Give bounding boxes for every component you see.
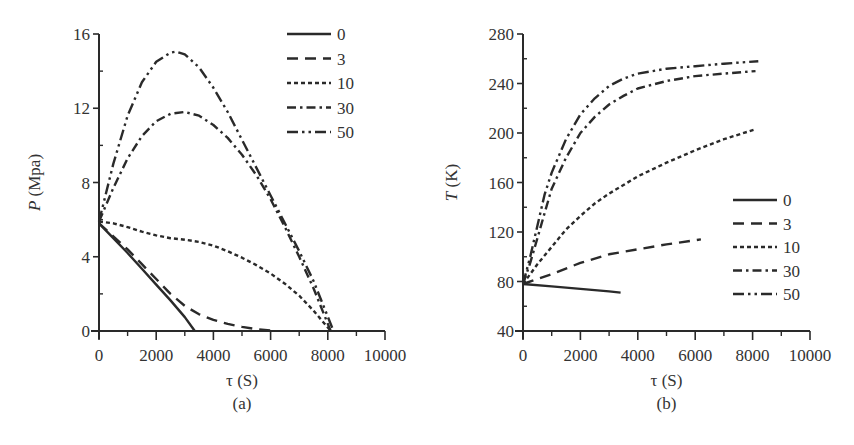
x-tick-label: 2000 (139, 346, 173, 365)
y-tick-label: 40 (497, 322, 514, 341)
y-tick-label: 12 (73, 99, 90, 118)
series-line-0 (523, 284, 621, 293)
x-tick-label: 8000 (736, 346, 770, 365)
chart-pressure: 04812160200040006000800010000τ (S)(a)P (… (25, 25, 406, 413)
series-line-30 (99, 112, 331, 331)
legend-label: 30 (783, 262, 800, 281)
legend-label: 10 (337, 74, 354, 93)
x-tick-label: 10000 (364, 346, 407, 365)
y-tick-label: 120 (489, 223, 515, 242)
legend-label: 50 (783, 285, 800, 304)
y-tick-label: 280 (489, 25, 515, 44)
panel-label: (b) (657, 394, 677, 413)
y-tick-label: 80 (497, 273, 514, 292)
x-axis-label: τ (S) (651, 371, 683, 390)
x-tick-label: 0 (95, 346, 104, 365)
panel-label: (a) (233, 394, 252, 413)
legend-label: 3 (783, 215, 792, 234)
series-line-50 (523, 61, 758, 284)
series-line-10 (99, 222, 331, 332)
x-tick-label: 4000 (196, 346, 230, 365)
x-tick-label: 4000 (621, 346, 655, 365)
x-tick-label: 10000 (789, 346, 832, 365)
legend-label: 0 (783, 191, 792, 210)
legend-label: 50 (337, 123, 354, 142)
y-tick-label: 200 (489, 124, 515, 143)
y-axis-label: P (Mpa) (25, 154, 44, 212)
x-tick-label: 8000 (311, 346, 345, 365)
legend-label: 10 (783, 238, 800, 257)
series-line-50 (99, 52, 334, 331)
y-axis-label: T (K) (442, 164, 461, 201)
x-axis-label: τ (S) (226, 371, 258, 390)
legend-label: 3 (337, 50, 346, 69)
series-line-3 (99, 223, 276, 331)
y-tick-label: 16 (73, 25, 90, 44)
y-tick-label: 240 (489, 75, 515, 94)
y-tick-label: 8 (82, 174, 91, 193)
y-tick-label: 0 (82, 322, 91, 341)
series-line-0 (99, 223, 195, 331)
chart-temperature: 4080120160200240280020004000600080001000… (442, 25, 831, 413)
x-tick-label: 6000 (678, 346, 712, 365)
y-tick-label: 4 (82, 248, 91, 267)
legend: 03103050 (287, 25, 354, 142)
figure: 04812160200040006000800010000τ (S)(a)P (… (0, 0, 854, 445)
x-tick-label: 6000 (254, 346, 288, 365)
series-line-30 (523, 71, 756, 284)
x-tick-label: 0 (519, 346, 528, 365)
y-tick-label: 160 (489, 174, 515, 193)
legend-label: 0 (337, 25, 346, 44)
series-line-3 (523, 239, 701, 284)
x-tick-label: 2000 (563, 346, 597, 365)
legend: 03103050 (733, 191, 800, 304)
legend-label: 30 (337, 99, 354, 118)
series-line-10 (523, 129, 756, 284)
